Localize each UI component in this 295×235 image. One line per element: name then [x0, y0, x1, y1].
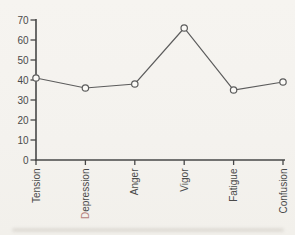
y-tick-label-60: 60 — [17, 35, 29, 46]
data-point-vigor — [181, 25, 187, 31]
scanned-chart-page: 010203040506070TensionDepressionAngerVig… — [0, 0, 295, 235]
y-tick-label-10: 10 — [17, 135, 29, 146]
y-tick-label-30: 30 — [17, 95, 29, 106]
x-axis-label-vigor: Vigor — [179, 168, 190, 192]
x-axis-label-fatigue: Fatigue — [228, 168, 239, 202]
x-axis-label-tension: Tension — [31, 169, 42, 203]
y-tick-label-40: 40 — [17, 75, 29, 86]
profile-line — [36, 28, 283, 90]
x-axis-label-depression: Depression — [80, 169, 91, 220]
y-tick-label-70: 70 — [17, 15, 29, 26]
y-tick-label-20: 20 — [17, 115, 29, 126]
data-point-confusion — [280, 79, 286, 85]
discolored-initial-letter: D — [80, 212, 91, 219]
cropped-caption-artifact — [12, 228, 284, 232]
mood-profile-line-chart: 010203040506070TensionDepressionAngerVig… — [0, 0, 295, 235]
data-point-anger — [132, 81, 138, 87]
data-point-fatigue — [230, 87, 236, 93]
data-point-tension — [33, 75, 39, 81]
data-point-depression — [82, 85, 88, 91]
y-tick-label-0: 0 — [23, 155, 29, 166]
y-tick-label-50: 50 — [17, 55, 29, 66]
x-axis-label-anger: Anger — [129, 168, 140, 195]
x-axis-label-confusion: Confusion — [278, 169, 289, 214]
